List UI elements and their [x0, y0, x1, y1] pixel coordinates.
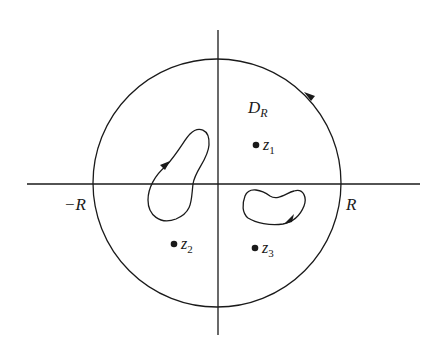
right-contour-arrow-icon: [284, 214, 294, 224]
left-contour-arrow-icon: [160, 161, 170, 170]
z3-label: z3: [261, 239, 274, 259]
point-z1: [253, 142, 260, 149]
point-z3: [252, 245, 259, 252]
R-label: R: [345, 195, 357, 214]
z1-label: z1: [262, 136, 275, 156]
contour-diagram: DR z1 z2 z3 −R R: [0, 0, 436, 348]
boundary-circle: [93, 59, 341, 307]
point-z2: [171, 241, 178, 248]
z2-label: z2: [180, 235, 193, 255]
right-contour: [243, 190, 305, 225]
neg-R-label: −R: [64, 195, 86, 214]
left-contour: [148, 129, 209, 220]
region-label: DR: [247, 98, 268, 120]
